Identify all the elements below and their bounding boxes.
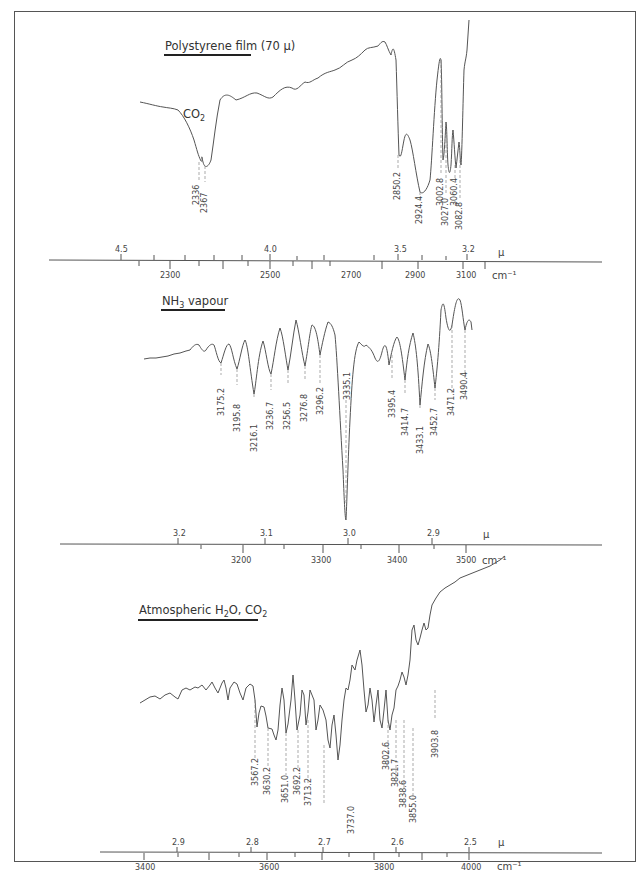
- nh3-axis: 3.2 3.1 3.0 2.9 µ 3200 3300 3400 3500 cm…: [60, 529, 602, 566]
- svg-text:cm⁻¹: cm⁻¹: [482, 555, 507, 566]
- svg-text:3433.1: 3433.1: [416, 426, 425, 454]
- svg-text:3500: 3500: [456, 556, 476, 565]
- svg-text:3800: 3800: [374, 863, 394, 872]
- svg-text:3400: 3400: [387, 556, 407, 565]
- svg-text:µ: µ: [498, 247, 505, 258]
- polystyrene-peak-labels: 2336 2367 2850.2 2924.4 3002.8 3027.0 30…: [192, 172, 464, 230]
- svg-text:3490.4: 3490.4: [460, 372, 469, 400]
- svg-text:2.5: 2.5: [464, 838, 477, 847]
- svg-text:3600: 3600: [259, 863, 279, 872]
- svg-text:3395.4: 3395.4: [388, 390, 397, 418]
- svg-text:3256.5: 3256.5: [283, 402, 292, 430]
- svg-text:3200: 3200: [231, 556, 251, 565]
- svg-text:3651.0: 3651.0: [281, 775, 290, 803]
- panel-nh3: NH3 vapour 3175.2 3195.8 3216.1 3236.7 3…: [60, 294, 602, 566]
- svg-text:3276.8: 3276.8: [300, 394, 309, 422]
- svg-text:3.1: 3.1: [260, 529, 273, 538]
- atmospheric-peak-labels: 3567.2 3630.2 3651.0 3692.2 3713.2 3737.…: [251, 730, 440, 834]
- svg-text:3300: 3300: [311, 556, 331, 565]
- svg-text:3737.0: 3737.0: [347, 806, 356, 834]
- svg-text:2500: 2500: [260, 271, 280, 280]
- svg-text:4.5: 4.5: [115, 245, 128, 254]
- svg-text:2367: 2367: [200, 193, 209, 213]
- svg-text:2.9: 2.9: [427, 529, 440, 538]
- svg-text:3027.0: 3027.0: [441, 198, 450, 226]
- svg-text:2.9: 2.9: [172, 838, 185, 847]
- svg-text:2850.2: 2850.2: [393, 172, 402, 200]
- polystyrene-peak-markers: [199, 60, 460, 200]
- svg-text:3.2: 3.2: [462, 245, 475, 254]
- svg-text:cm⁻¹: cm⁻¹: [497, 861, 522, 872]
- svg-text:3414.7: 3414.7: [401, 408, 410, 436]
- svg-text:4000: 4000: [461, 863, 481, 872]
- svg-text:3471.2: 3471.2: [447, 388, 456, 416]
- svg-text:3692.2: 3692.2: [293, 767, 302, 795]
- svg-text:2700: 2700: [341, 271, 361, 280]
- svg-text:3335.1: 3335.1: [343, 372, 352, 400]
- svg-text:3060.4: 3060.4: [450, 178, 459, 206]
- svg-text:2900: 2900: [405, 271, 425, 280]
- atmospheric-spectrum: [140, 556, 505, 760]
- svg-text:2300: 2300: [160, 271, 180, 280]
- svg-text:3100: 3100: [456, 271, 476, 280]
- svg-text:3855.0: 3855.0: [409, 795, 418, 823]
- svg-text:2.6: 2.6: [391, 838, 404, 847]
- svg-text:3.2: 3.2: [173, 529, 186, 538]
- svg-text:3452.7: 3452.7: [430, 408, 439, 436]
- svg-text:cm⁻¹: cm⁻¹: [492, 270, 517, 281]
- svg-text:3216.1: 3216.1: [250, 424, 259, 452]
- svg-text:3903.8: 3903.8: [431, 730, 440, 758]
- svg-text:3400: 3400: [135, 863, 155, 872]
- panel-atmospheric: Atmospheric H2O, CO2 3567.2 3630.2 3651.…: [100, 556, 602, 872]
- svg-text:µ: µ: [483, 529, 490, 540]
- svg-text:3175.2: 3175.2: [217, 388, 226, 416]
- svg-text:3296.2: 3296.2: [316, 387, 325, 415]
- svg-text:3713.2: 3713.2: [304, 778, 313, 806]
- spectra-figure: Polystyrene film (70 µ) CO2 2336 2367 28…: [0, 0, 644, 874]
- svg-text:2924.4: 2924.4: [415, 196, 424, 224]
- svg-text:3.0: 3.0: [343, 529, 356, 538]
- polystyrene-axis: 4.5 4.0 3.5 3.2 µ 2300 2500 2700 2900 31…: [49, 245, 602, 281]
- nh3-peak-labels: 3175.2 3195.8 3216.1 3236.7 3256.5 3276.…: [217, 372, 469, 454]
- svg-text:3630.2: 3630.2: [263, 767, 272, 795]
- atmospheric-axis: 2.9 2.8 2.7 2.6 2.5 µ 3400 3600 3800 400…: [100, 837, 602, 872]
- svg-text:3.5: 3.5: [394, 245, 407, 254]
- svg-text:3838.6: 3838.6: [399, 780, 408, 808]
- panel-title-nh3: NH3 vapour: [162, 294, 228, 310]
- svg-text:µ: µ: [498, 837, 505, 848]
- co2-annotation: CO2: [183, 107, 205, 123]
- svg-text:3567.2: 3567.2: [251, 758, 260, 786]
- svg-text:4.0: 4.0: [264, 245, 277, 254]
- svg-text:2.8: 2.8: [246, 838, 259, 847]
- panel-polystyrene: Polystyrene film (70 µ) CO2 2336 2367 28…: [49, 20, 602, 281]
- panel-title-polystyrene: Polystyrene film (70 µ): [165, 39, 295, 53]
- svg-text:3236.7: 3236.7: [266, 402, 275, 430]
- svg-text:3802.6: 3802.6: [382, 742, 391, 770]
- svg-text:3195.8: 3195.8: [233, 404, 242, 432]
- svg-text:2.7: 2.7: [318, 838, 331, 847]
- panel-title-atmospheric: Atmospheric H2O, CO2: [139, 603, 267, 619]
- svg-text:3082.8: 3082.8: [455, 202, 464, 230]
